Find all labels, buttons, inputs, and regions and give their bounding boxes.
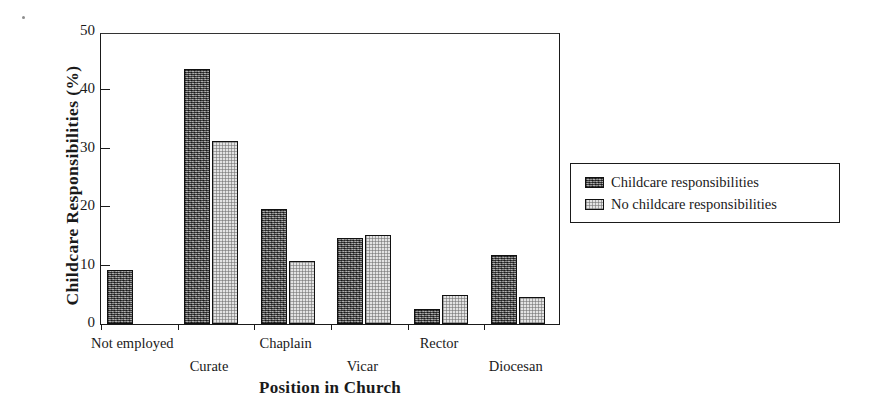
bar-series-layer: [101, 34, 559, 324]
legend-entry-no-childcare: No childcare responsibilities: [585, 193, 839, 215]
bar: [414, 309, 440, 324]
legend-label-no-childcare: No childcare responsibilities: [611, 196, 777, 213]
bar-group: [491, 34, 545, 324]
bar: [519, 297, 545, 324]
plot-area: 01020304050: [100, 33, 560, 325]
x-tick: [484, 324, 485, 330]
legend-entry-childcare: Childcare responsibilities: [585, 171, 839, 193]
x-label-curate: Curate: [190, 358, 229, 375]
y-tick-label-50: 50: [80, 22, 95, 39]
x-label-diocesan: Diocesan: [489, 358, 543, 375]
bar-group: [107, 34, 161, 324]
bar: [491, 255, 517, 324]
bar: [212, 141, 238, 324]
y-tick-label-20: 20: [80, 197, 95, 214]
bar: [337, 238, 363, 324]
legend-swatch-childcare-icon: [585, 177, 604, 188]
bar: [184, 69, 210, 324]
x-label-rector: Rector: [420, 335, 459, 352]
scan-speck-artifact: [22, 16, 25, 19]
legend-swatch-no-childcare-icon: [585, 199, 604, 210]
bar-group: [337, 34, 391, 324]
bar: [365, 235, 391, 324]
x-tick: [254, 324, 255, 330]
x-tick: [178, 324, 179, 330]
y-tick-label-40: 40: [80, 80, 95, 97]
x-label-vicar: Vicar: [347, 358, 378, 375]
x-label-chaplain: Chaplain: [259, 335, 311, 352]
legend-label-childcare: Childcare responsibilities: [611, 174, 759, 191]
x-label-not-employed: Not employed: [91, 335, 174, 352]
y-tick-label-10: 10: [80, 256, 95, 273]
bar-group: [261, 34, 315, 324]
y-axis-title: Childcare Responsibilities (%): [62, 31, 83, 341]
y-tick-label-30: 30: [80, 139, 95, 156]
x-tick: [408, 324, 409, 330]
bar: [261, 209, 287, 324]
bar-group: [414, 34, 468, 324]
chart-legend: Childcare responsibilities No childcare …: [570, 163, 840, 223]
bar: [442, 295, 468, 324]
bar: [107, 270, 133, 324]
x-tick: [101, 324, 102, 330]
y-tick-label-0: 0: [88, 314, 96, 331]
bar-group: [184, 34, 238, 324]
x-axis-title: Position in Church: [100, 378, 560, 398]
x-tick: [331, 324, 332, 330]
bar: [289, 261, 315, 324]
